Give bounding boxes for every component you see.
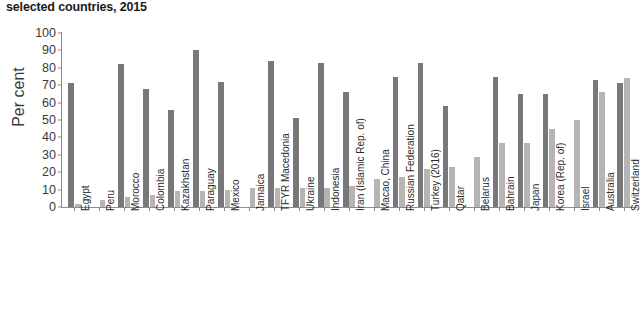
x-tick-label-slot: Morocco (112, 208, 137, 308)
bar-dark (143, 89, 149, 207)
x-tick-label: Kazakhstan (180, 159, 191, 211)
x-tick-label-slot: Switzerland (611, 208, 636, 308)
x-tick-label: Morocco (130, 173, 141, 211)
bar-group (62, 33, 87, 207)
bar-dark (268, 61, 274, 207)
x-tick-label: Macao, China (379, 149, 390, 211)
x-tick-label-slot: Macao, China (361, 208, 386, 308)
x-tick-label: Indonesia (330, 168, 341, 211)
x-tick-label-slot: Japan (511, 208, 536, 308)
bar-dark (218, 82, 224, 207)
x-tick-label-slot: TFYR Macedonia (262, 208, 287, 308)
x-tick-label-slot: Iran (Islamic Rep. of) (337, 208, 362, 308)
x-tick-label-slot: Russian Federation (386, 208, 411, 308)
x-tick-label-slot: Qatar (436, 208, 461, 308)
x-tick-label-slot: Egypt (62, 208, 87, 308)
x-tick-label-slot: Paraguay (187, 208, 212, 308)
bar-dark (293, 118, 299, 207)
x-tick-label-slot: Peru (87, 208, 112, 308)
x-tick-label-slot: Korea (Rep. of) (536, 208, 561, 308)
bar-dark (393, 77, 399, 208)
x-tick-label: Mexico (230, 179, 241, 211)
bar-dark (168, 110, 174, 207)
bar-dark (318, 63, 324, 207)
x-tick-label: Belarus (479, 177, 490, 211)
bar-dark (443, 106, 449, 207)
bar-dark (493, 77, 499, 208)
x-tick-label: Turkey (2016) (429, 149, 440, 211)
bar-dark (593, 80, 599, 207)
bar-dark (68, 83, 74, 207)
x-tick-label: Korea (Rep. of) (554, 143, 565, 211)
x-tick-label-slot: Colombia (137, 208, 162, 308)
x-tick-label-slot: Bahrain (486, 208, 511, 308)
x-tick-label: Australia (604, 172, 615, 211)
bar-chart: selected countries, 2015 Per cent 010203… (0, 0, 641, 310)
bar-dark (118, 64, 124, 207)
bar-dark (418, 63, 424, 207)
x-tick-label: Colombia (155, 169, 166, 211)
x-tick-label: Paraguay (205, 168, 216, 211)
bar-dark (543, 94, 549, 207)
y-axis-label: Per cent (10, 47, 28, 147)
x-tick-label: Jamaica (255, 174, 266, 211)
x-tick-label-slot: Indonesia (312, 208, 337, 308)
x-tick-label: Russian Federation (404, 124, 415, 211)
x-tick-label: Iran (Islamic Rep. of) (354, 118, 365, 211)
x-tick-label-slot: Mexico (212, 208, 237, 308)
x-tick-label-slot: Belarus (461, 208, 486, 308)
bar-group (87, 33, 112, 207)
x-tick-label: Ukraine (305, 177, 316, 211)
x-axis-tick-labels: EgyptPeruMoroccoColombiaKazakhstanParagu… (62, 208, 636, 308)
x-tick-label-slot: Jamaica (237, 208, 262, 308)
x-tick-label-slot: Kazakhstan (162, 208, 187, 308)
x-tick-label-slot: Turkey (2016) (411, 208, 436, 308)
x-tick-label: Bahrain (504, 177, 515, 211)
bar-dark (193, 50, 199, 207)
x-tick-label: Switzerland (629, 159, 640, 211)
chart-title: selected countries, 2015 (6, 0, 147, 14)
bar-dark (617, 83, 623, 207)
x-tick-label-slot: Israel (561, 208, 586, 308)
x-tick-label-slot: Ukraine (287, 208, 312, 308)
bar-dark (518, 94, 524, 207)
bar-dark (343, 92, 349, 207)
x-tick-label-slot: Australia (586, 208, 611, 308)
x-tick-label: TFYR Macedonia (280, 133, 291, 211)
plot-area: 0102030405060708090100 (62, 33, 636, 207)
x-tick-label: Japan (529, 184, 540, 211)
